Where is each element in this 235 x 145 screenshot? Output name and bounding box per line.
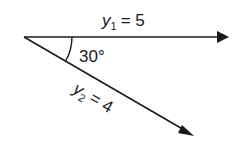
vector-diagram: y1= 5 30° y2= 4 (0, 0, 235, 145)
angle-arc (66, 37, 72, 61)
vector-y1 (24, 31, 229, 43)
vector-y1-arrowhead-icon (217, 31, 229, 43)
vector-y2-line (24, 37, 186, 131)
vector-y1-label: y1= 5 (101, 11, 145, 32)
vector-y2-label: y2= 4 (68, 79, 116, 119)
vector-y2-arrowhead-icon (178, 125, 194, 136)
angle-label: 30° (79, 47, 105, 66)
vector-y2 (24, 37, 194, 136)
